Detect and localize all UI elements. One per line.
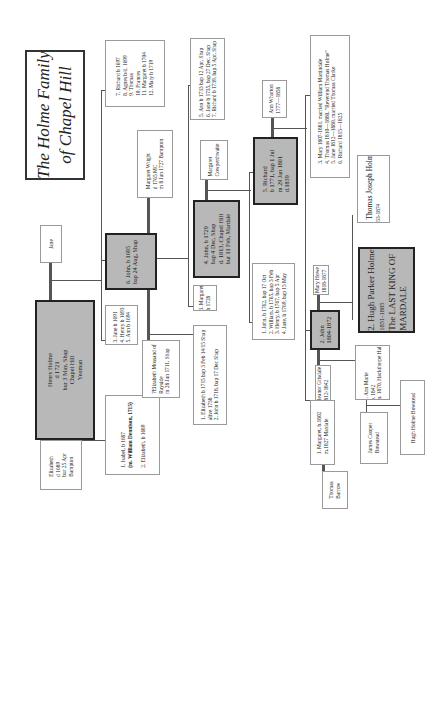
title-line-1: The Holme Family <box>33 51 55 178</box>
person-thomas-barrow: Thomas Barrow <box>322 471 348 509</box>
children-jane-henry-ann: 3. Jane b 1691 4. Henry b 1693 5. Ann b … <box>105 305 138 345</box>
title-line-2: of Chapel Hill <box>55 51 77 178</box>
children-ann-jane-richard: 5. Ann b 1733 bap 12 Apr, Shap 6. Jane b… <box>190 38 225 120</box>
person-mary-howe: Mary Howe 1818-1877 <box>313 265 329 295</box>
title-box: The Holme Family of Chapel Hill <box>25 50 85 180</box>
connector-line <box>318 302 353 303</box>
connector-line <box>188 85 189 307</box>
person-margaret-cowperthwaite: Margaret Cowperthwaite <box>200 140 228 180</box>
connector-line <box>101 90 102 340</box>
person-hugh-parker-holme: 2. Hugh Parker Holme 1851-1885 The LAST … <box>358 247 415 333</box>
person-ann-wharton: Ann Wharton 1777—1858 <box>262 80 287 118</box>
person-margaret-wright: Margaret Wright d 1765 MC m 8 Jun 1727 B… <box>137 130 173 198</box>
connector-line <box>318 360 356 361</box>
person-elizabeth-spouse: Elizabeth d 1689 bur 25 Apr Bampton <box>40 440 82 490</box>
person-margaret-1802: 1. Margaret, b.1802 m.1827 Mardale <box>310 400 335 465</box>
connector-line <box>272 128 307 129</box>
connector-line <box>366 405 400 406</box>
children-isabel-elizabeth: 1. Isabel, b 1687 (m. William Dennison, … <box>105 395 160 475</box>
connector-line <box>206 190 251 191</box>
person-eleanor-grisdale: Eleanor Grisdale 1812-1842 <box>315 365 331 405</box>
person-richard-1771: 5. Richard b 1771, bap 1 Jul m 29 Jan 18… <box>253 137 298 205</box>
person-hugh-holme-bowstead: Hugh Holme Bowstead <box>400 380 425 455</box>
person-james-cooper-bowstead: James Cooper Bowstead <box>360 412 388 464</box>
family-tree-diagram: The Holme Family of Chapel Hill Jane Hen… <box>0 0 445 709</box>
person-henry-holme: Henry Holme d 1721 bur 3 May, Shap Chape… <box>35 300 95 440</box>
children-elizabeth-john-1715: 1. Elizabeth b 1715 bap 3 Feb 14/15 Shap… <box>193 325 227 425</box>
connector-line <box>147 198 150 234</box>
connector-line <box>50 280 102 281</box>
connector-line <box>317 350 320 366</box>
person-thomas-joseph-holme: 3. Thomas Joseph Holme 1853-1874 <box>357 155 390 223</box>
person-ann-marie: 1. Ann Marie b. 1842 m. 1870, Hackthorpe… <box>355 345 390 400</box>
person-jane-spouse: Jane <box>40 225 62 263</box>
connector-line <box>305 95 306 400</box>
person-john-1729: 4. John, b 1729 bap 4 Dec, Shap d. 1813,… <box>193 200 240 278</box>
connector-line <box>352 215 353 320</box>
person-john-1804: 2. John 1804-1872 <box>310 310 340 350</box>
person-john-1695: 6. John, b 1695 bap 24 Aug, Shap <box>105 233 157 290</box>
connector-line <box>148 334 193 335</box>
person-elizabeth-mossand: ?Elizabeth Mossand of Rayside m 28 Jun 1… <box>142 340 180 398</box>
connector-line <box>249 172 250 322</box>
children-richard-to-mary: 7. Richard b 1697 8. Agnes b/d. 1699 9. … <box>105 40 165 107</box>
children-mary-thomas-jane-richard: 3. Mary 1807-1881. married William Marti… <box>310 35 350 178</box>
person-margaret-1728: 3. Margaret b 1728 <box>193 285 217 311</box>
connector-line <box>157 258 189 259</box>
connector-line <box>317 295 320 311</box>
children-john-william-henry-jane: 1. John, b 1762, bap 17 Oct 2. William, … <box>252 263 295 340</box>
connector-line <box>366 400 367 412</box>
